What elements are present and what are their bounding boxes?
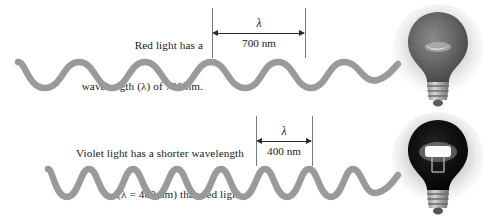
violet-dimension-arrowhead-left-icon (256, 138, 262, 144)
violet-bulb-filament-glow (419, 142, 457, 162)
violet-lambda-symbol: λ (254, 125, 314, 137)
red-light-wave (0, 50, 420, 105)
red-dimension-arrowhead-left-icon (212, 30, 218, 36)
red-wavelength-value: 700 nm (212, 37, 306, 49)
red-lambda-symbol: λ (212, 17, 306, 29)
wavelength-diagram: Red light has a wavelength (λ) of 700 nm… (0, 0, 489, 220)
violet-bulb-contact (433, 208, 443, 215)
red-bulb-contact (433, 100, 443, 107)
light-bulb-red (392, 4, 484, 108)
red-bulb-filament-glow (425, 42, 451, 52)
violet-wave-path (48, 169, 398, 197)
violet-dimension-arrow-line (258, 141, 311, 142)
violet-dimension-arrowhead-right-icon (306, 138, 312, 144)
red-bulb-graphic (392, 4, 484, 108)
violet-light-wave (0, 155, 420, 213)
light-bulb-violet (392, 112, 484, 216)
red-wave-path (18, 62, 398, 88)
red-dimension-arrow-line (214, 33, 304, 34)
violet-bulb-graphic (392, 112, 484, 216)
red-dimension-arrowhead-right-icon (299, 30, 305, 36)
